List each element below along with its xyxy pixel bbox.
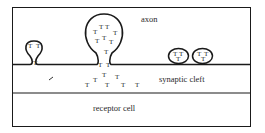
- label-synaptic-cleft: synaptic cleft: [159, 75, 205, 84]
- transmitter: T: [115, 74, 119, 81]
- transmitter: T: [121, 82, 125, 89]
- transmitter: T: [105, 24, 109, 31]
- transmitter: T: [98, 62, 102, 69]
- transmitter: T: [95, 38, 99, 45]
- label-axon: axon: [141, 15, 158, 24]
- transmitter: T: [201, 56, 205, 63]
- transmitter: T: [99, 24, 103, 31]
- label-receptor-cell: receptor cell: [93, 104, 135, 113]
- transmitter: T: [102, 72, 106, 79]
- transmitter: T: [109, 39, 113, 46]
- transmitter: T: [104, 49, 108, 56]
- transmitter: T: [33, 60, 37, 67]
- transmitter: T: [135, 82, 139, 89]
- diffusion-mark: [49, 77, 53, 80]
- transmitter: T: [28, 43, 32, 50]
- synapse-diagram: [0, 0, 265, 133]
- transmitter: T: [85, 82, 89, 89]
- transmitter: T: [105, 82, 109, 89]
- transmitter: T: [36, 43, 40, 50]
- transmitter: T: [102, 35, 106, 42]
- transmitter: T: [176, 56, 180, 63]
- transmitter: T: [106, 62, 110, 69]
- axon-membrane: [12, 14, 251, 65]
- transmitter: T: [93, 77, 97, 84]
- transmitter: T: [113, 30, 117, 37]
- transmitter: T: [93, 29, 97, 36]
